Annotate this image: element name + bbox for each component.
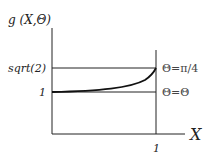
y-tick-1: 1 [39, 86, 46, 99]
curve-label-lower: Θ=Θ [162, 86, 189, 99]
x-axis-label: X [188, 125, 202, 144]
diagram-canvas: g (X,Θ) sqrt(2) 1 1 X Θ=π/4 Θ=Θ [0, 0, 224, 156]
y-tick-sqrt2: sqrt(2) [8, 62, 46, 75]
curve-label-upper: Θ=π/4 [162, 62, 198, 75]
g-curve [52, 68, 156, 92]
y-axis-label: g (X,Θ) [8, 13, 51, 27]
x-tick-1: 1 [153, 142, 160, 155]
